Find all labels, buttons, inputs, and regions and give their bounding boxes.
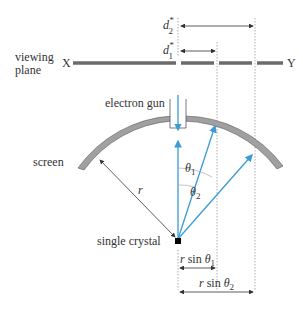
d1-label: d*1 — [163, 40, 174, 61]
rsin-theta2-label: r sin θ2 — [199, 276, 234, 292]
projection-guides — [178, 18, 255, 290]
radius-label: r — [138, 183, 143, 197]
radius-dimension — [100, 160, 175, 237]
y-end-label: Y — [287, 56, 296, 70]
screen-label: screen — [33, 155, 64, 169]
theta1-label: θ1 — [185, 161, 195, 177]
single-crystal — [175, 238, 181, 244]
rsin-theta1-label: r sin θ1 — [180, 252, 215, 268]
diffraction-diagram: viewing plane X Y d*2 d*1 screen electro… — [0, 0, 303, 312]
x-end-label: X — [62, 56, 71, 70]
viewing-plane-label-1: viewing — [15, 50, 54, 64]
diffracted-beam-1 — [178, 126, 215, 239]
crystal-label: single crystal — [97, 234, 161, 248]
d2-label: d*2 — [163, 15, 174, 36]
theta2-label: θ2 — [190, 185, 200, 201]
viewing-plane-label-2: plane — [15, 63, 41, 77]
electron-gun-label: electron gun — [105, 96, 165, 110]
